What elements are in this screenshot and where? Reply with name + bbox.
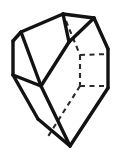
figure-container <box>0 0 118 151</box>
geometric-solid-diagram <box>0 0 118 151</box>
hidden-back-top-horizontal-edge <box>80 54 108 55</box>
